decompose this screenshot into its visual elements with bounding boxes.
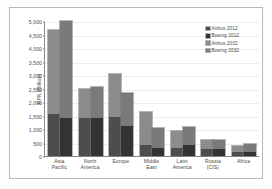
bar-segment-2012 — [79, 118, 91, 156]
bar-segment-2032 — [109, 74, 121, 116]
y-tick-label: 4,500 — [29, 33, 42, 39]
y-tick-label: 4,000 — [29, 46, 42, 52]
legend-label: Boeing 2012 — [212, 33, 240, 38]
legend-item: Boeing 2012 — [206, 33, 239, 38]
bar-segment-2012 — [201, 149, 213, 156]
x-axis-label: Africa — [230, 158, 258, 170]
x-axis-label-line: Pacific — [45, 164, 73, 170]
bar-boeing — [213, 140, 225, 156]
bar-segment-2012 — [213, 149, 225, 156]
bar-boeing — [60, 21, 72, 156]
legend-item: Airbus 2012 — [206, 26, 239, 31]
x-axis-label-line: America — [76, 164, 104, 170]
y-tick-label: 1,000 — [29, 127, 42, 133]
legend-item: Boeing 2032 — [206, 48, 239, 53]
bar-boeing — [244, 144, 256, 156]
bar-segment-2032 — [171, 131, 183, 148]
y-tick-label: 500 — [33, 141, 42, 147]
legend-label: Airbus 2012 — [212, 26, 238, 31]
bar-airbus — [79, 89, 91, 157]
legend-swatch-icon — [206, 34, 210, 38]
bar-segment-2032 — [79, 89, 91, 119]
x-axis-label-line: East — [137, 164, 165, 170]
bar-group — [171, 22, 195, 156]
x-axis-label: Russia(CIS) — [199, 158, 227, 170]
y-tick-label: 3,500 — [29, 60, 42, 66]
bar-segment-2012 — [232, 152, 244, 156]
legend-item: Airbus 2032 — [206, 41, 239, 46]
bar-segment-2012 — [48, 114, 60, 156]
bar-segment-2012 — [60, 118, 72, 156]
bar-segment-2012 — [91, 118, 103, 156]
x-axis-label: NorthAmerica — [76, 158, 104, 170]
bar-boeing — [91, 87, 103, 156]
y-tick-label: 2,500 — [29, 87, 42, 93]
bar-segment-2032 — [183, 127, 195, 145]
bar-segment-2012 — [183, 145, 195, 156]
y-tick-label: 2,000 — [29, 100, 42, 106]
bar-segment-2012 — [140, 145, 152, 156]
bar-airbus — [109, 74, 121, 156]
bar-boeing — [121, 93, 133, 156]
bar-airbus — [171, 131, 183, 156]
bar-boeing — [183, 127, 195, 156]
x-axis-label: LatinAmerica — [168, 158, 196, 170]
y-tick-label: 1,500 — [29, 114, 42, 120]
bar-segment-2032 — [60, 21, 72, 118]
bar-airbus — [140, 112, 152, 156]
bar-group — [140, 22, 164, 156]
x-axis-label-line: (CIS) — [199, 164, 227, 170]
x-axis-label: MiddleEast — [137, 158, 165, 170]
x-axis-labels: AsiaPacificNorthAmericaEuropeMiddleEastL… — [44, 158, 259, 170]
bar-group — [48, 22, 72, 156]
chart-legend: Airbus 2012Boeing 2012Airbus 2032Boeing … — [206, 26, 239, 53]
bar-segment-2012 — [121, 126, 133, 156]
bar-segment-2012 — [244, 152, 256, 156]
legend-swatch-icon — [206, 49, 210, 53]
bar-boeing — [152, 128, 164, 156]
x-axis-label-line: Africa — [230, 158, 258, 164]
x-axis-label: AsiaPacific — [45, 158, 73, 170]
bar-segment-2032 — [91, 87, 103, 118]
bar-segment-2032 — [213, 140, 225, 149]
bar-segment-2012 — [171, 148, 183, 156]
y-tick-label: 0 — [39, 154, 42, 160]
x-axis-label: Europe — [107, 158, 135, 170]
bar-airbus — [232, 146, 244, 156]
bar-segment-2032 — [121, 93, 133, 126]
legend-swatch-icon — [206, 41, 210, 45]
bar-segment-2032 — [48, 30, 60, 113]
x-axis-label-line: America — [168, 164, 196, 170]
legend-swatch-icon — [206, 27, 210, 31]
y-tick-label: 5,000 — [29, 19, 42, 25]
bar-group — [109, 22, 133, 156]
bar-segment-2012 — [152, 148, 164, 156]
chart-frame: RPK (Billion) 5,0004,5004,0003,5003,0002… — [9, 7, 263, 179]
bar-segment-2012 — [109, 117, 121, 156]
legend-label: Boeing 2032 — [212, 48, 240, 53]
x-axis-label-line: Europe — [107, 158, 135, 164]
bar-airbus — [201, 140, 213, 156]
y-tick-label: 3,000 — [29, 73, 42, 79]
bar-segment-2032 — [140, 112, 152, 146]
bar-airbus — [48, 30, 60, 156]
bar-segment-2032 — [152, 128, 164, 148]
bar-segment-2032 — [201, 140, 213, 149]
legend-label: Airbus 2032 — [212, 41, 238, 46]
bar-segment-2032 — [244, 144, 256, 151]
chart-screenshot: RPK (Billion) 5,0004,5004,0003,5003,0002… — [0, 0, 272, 189]
bar-group — [79, 22, 103, 156]
